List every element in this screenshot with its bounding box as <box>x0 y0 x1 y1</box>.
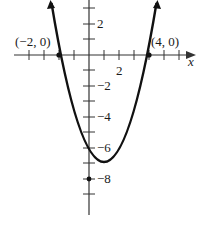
curve-arrow-right-icon <box>153 0 161 9</box>
y-tick-label-2: 2 <box>97 16 104 31</box>
point-label-neg2-0: (−2, 0) <box>15 34 51 49</box>
y-tick-label-neg6: −6 <box>97 140 111 155</box>
point-neg2-0 <box>56 52 61 57</box>
point-4-0 <box>146 52 151 57</box>
y-tick-label-neg8: −8 <box>97 171 111 186</box>
parabola-graph: (−2, 0) (4, 0) x 2 2 −2 −4 −6 −8 <box>0 0 208 227</box>
point-0-neg8 <box>87 177 92 182</box>
y-tick-label-neg4: −4 <box>97 109 111 124</box>
curve-arrow-left-icon <box>47 0 55 9</box>
x-axis-label: x <box>187 54 194 69</box>
y-tick-label-neg2: −2 <box>97 78 111 93</box>
x-tick-label-2: 2 <box>116 63 123 78</box>
point-label-4-0: (4, 0) <box>151 34 179 49</box>
